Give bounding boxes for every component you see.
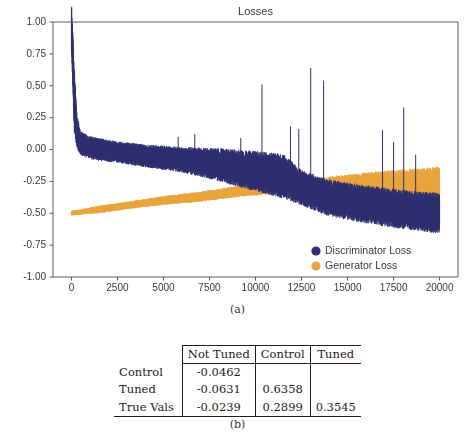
table-cell-tuned-not-tuned: -0.0631	[182, 381, 255, 398]
results-table-panel: Not Tuned Control Tuned Control -0.0462 …	[0, 345, 475, 417]
table-row: Control -0.0462	[114, 364, 361, 382]
table-row-label-tuned: Tuned	[114, 381, 182, 398]
figure-root: (a) Not Tuned Control Tuned Control -0.0…	[0, 0, 475, 443]
table-column-header-tuned: Tuned	[310, 346, 361, 364]
table-corner-cell	[114, 346, 182, 364]
table-cell-tuned-tuned	[310, 381, 361, 398]
subfigure-a-caption: (a)	[0, 303, 475, 316]
table-column-header-control: Control	[255, 346, 310, 364]
table-row-label-true-vals: True Vals	[114, 399, 182, 417]
table-row: Tuned -0.0631 0.6358	[114, 381, 361, 398]
losses-chart-panel	[0, 0, 475, 300]
losses-chart	[0, 0, 475, 300]
results-table-body: Control -0.0462 Tuned -0.0631 0.6358 Tru…	[114, 364, 361, 417]
table-cell-true-vals-not-tuned: -0.0239	[182, 399, 255, 417]
table-cell-true-vals-control: 0.2899	[255, 399, 310, 417]
results-table: Not Tuned Control Tuned Control -0.0462 …	[114, 345, 361, 417]
table-column-header-not-tuned: Not Tuned	[182, 346, 255, 364]
table-cell-control-not-tuned: -0.0462	[182, 364, 255, 382]
table-cell-control-tuned	[310, 364, 361, 382]
results-table-head: Not Tuned Control Tuned	[114, 346, 361, 364]
table-cell-control-control	[255, 364, 310, 382]
table-row-label-control: Control	[114, 364, 182, 382]
table-header-row: Not Tuned Control Tuned	[114, 346, 361, 364]
table-cell-true-vals-tuned: 0.3545	[310, 399, 361, 417]
subfigure-b-caption: (b)	[0, 418, 475, 431]
table-cell-tuned-control: 0.6358	[255, 381, 310, 398]
table-row: True Vals -0.0239 0.2899 0.3545	[114, 399, 361, 417]
